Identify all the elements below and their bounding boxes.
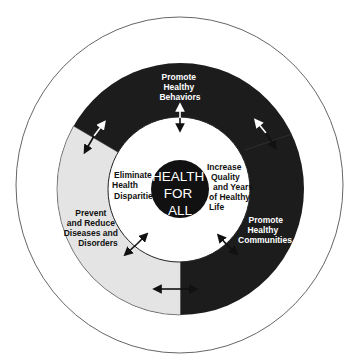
health-for-all-diagram: Improve Systems for Personal and Public … <box>0 0 356 364</box>
label-promote-healthy-behaviors: Promote Healthy Behaviors <box>159 72 200 102</box>
